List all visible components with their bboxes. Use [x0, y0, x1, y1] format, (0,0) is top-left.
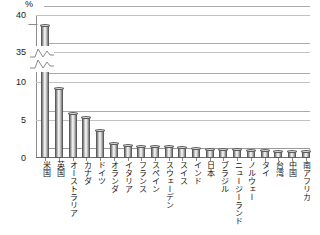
bar-cap — [301, 150, 311, 153]
bar-2 — [55, 89, 63, 158]
bar-body — [124, 146, 132, 158]
bar-body — [247, 151, 255, 158]
x-label-5: ドイツ — [96, 161, 104, 185]
bar-chart: % 05103540 米国英国オーストラリアカナダドイツオランダイタリアフランス… — [0, 0, 320, 235]
bar-cap — [123, 144, 133, 147]
x-label-3: オーストラリア — [69, 161, 77, 217]
bar-12 — [192, 149, 200, 158]
y-axis-tick-10: 10 — [2, 78, 26, 87]
bar-body — [110, 144, 118, 159]
bar-10 — [165, 147, 173, 158]
bar-body — [151, 147, 159, 158]
bar-cap — [205, 148, 215, 151]
bar-16 — [247, 151, 255, 158]
bar-body — [261, 151, 269, 158]
bar-5 — [96, 131, 104, 158]
bar-6 — [110, 144, 118, 159]
bar-cap — [81, 116, 91, 119]
x-label-7: イタリア — [124, 161, 132, 193]
bar-body — [137, 147, 145, 158]
x-label-1: 米国 — [41, 161, 49, 177]
x-label-6: オランダ — [110, 161, 118, 193]
x-label-4: カナダ — [82, 161, 90, 185]
bar-cap — [136, 145, 146, 148]
y-axis-tick-5: 5 — [2, 116, 26, 125]
bar-8 — [137, 147, 145, 158]
x-label-18: 台湾 — [274, 161, 282, 177]
x-label-17: タイ — [261, 161, 269, 177]
x-label-11: スイス — [178, 161, 186, 185]
gridline-40 — [44, 6, 310, 7]
bar-body — [55, 89, 63, 158]
bar-cap — [109, 142, 119, 145]
bar-cap — [273, 150, 283, 153]
bar-cap — [287, 150, 297, 153]
bar-body — [219, 150, 227, 158]
bar-body — [82, 118, 90, 158]
x-axis-category-labels: 米国英国オーストラリアカナダドイツオランダイタリアフランススペインスウェーデンス… — [36, 161, 310, 235]
x-label-2: 英国 — [55, 161, 63, 177]
bar-3 — [69, 114, 77, 158]
bar-body — [233, 150, 241, 158]
bar-body — [165, 147, 173, 158]
x-label-13: 日本 — [206, 161, 214, 177]
bar-body — [96, 131, 104, 158]
bar-7 — [124, 146, 132, 158]
bar-body — [69, 114, 77, 158]
y-axis-tick-35: 35 — [2, 48, 26, 57]
bar-body — [178, 148, 186, 158]
bar-13 — [206, 150, 214, 158]
bar-series — [36, 15, 310, 158]
bar-4 — [82, 118, 90, 158]
x-label-9: スペイン — [151, 161, 159, 193]
axis-break-upper-icon — [30, 46, 54, 59]
x-label-14: ブラジル — [219, 161, 227, 193]
bar-11 — [178, 148, 186, 158]
x-label-8: フランス — [137, 161, 145, 193]
bar-body — [206, 150, 214, 158]
x-label-19: 中国 — [288, 161, 296, 177]
y-axis-tick-0: 0 — [2, 154, 26, 163]
bar-14 — [219, 150, 227, 158]
axis-break-lower-icon — [30, 59, 54, 72]
bar-cap — [95, 129, 105, 132]
bar-cap — [260, 149, 270, 152]
x-label-15: ニュージーランド — [233, 161, 241, 225]
bar-15 — [233, 150, 241, 158]
bar-cap — [54, 87, 64, 90]
x-label-20: 南アフリカ — [302, 161, 310, 201]
bar-cap — [191, 147, 201, 150]
bar-9 — [151, 147, 159, 158]
x-label-12: インド — [192, 161, 200, 185]
x-label-16: ノルウェー — [247, 161, 255, 201]
y-axis-tick-40: 40 — [2, 11, 26, 20]
bar-body — [192, 149, 200, 158]
y-axis-unit-label: % — [25, 0, 33, 9]
bar-17 — [261, 151, 269, 158]
x-label-10: スウェーデン — [165, 161, 173, 209]
